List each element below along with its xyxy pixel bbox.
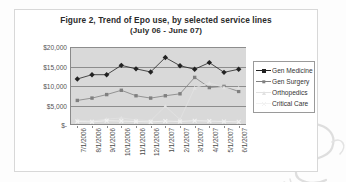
data-point-marker [133,66,138,71]
data-point-marker [177,63,182,68]
x-axis-tick-label: 8/1/2006 [95,128,102,153]
x-axis-tick-label: 3/1/2007 [197,128,204,153]
x-axis-tick-mark [92,126,93,128]
x-axis-tick-mark [209,126,210,128]
data-point-marker [207,60,212,65]
series-gen-surgery [76,76,241,102]
x-axis-tick-mark [136,126,137,128]
plot-series-layer [70,47,246,125]
data-point-marker [149,96,152,99]
legend-marker-square-icon [256,77,271,86]
y-axis-tick-label: $10,000 [43,83,67,90]
data-point-marker [207,81,211,85]
x-axis-tick-label: 9/1/2006 [109,128,116,153]
legend-item-gen-surgery[interactable]: Gen Surgery [256,76,312,87]
data-point-marker [119,63,124,68]
x-axis-tick-mark [180,126,181,128]
data-point-marker [75,76,80,81]
legend-marker-triangle-icon [256,88,271,97]
legend-marker-shape [262,102,266,106]
x-axis-tick-mark [121,126,122,128]
series-line [77,121,238,122]
chart-title-line1: Figure 2, Trend of Epo use, by selected … [15,15,317,26]
data-point-marker [90,96,93,99]
chart-title-line2: (July 06 - June 07) [15,26,317,37]
data-point-marker [89,72,94,77]
legend-item-label: Critical Care [271,100,308,107]
data-point-marker [104,72,109,77]
x-axis-tick-label: 1/1/2007 [168,128,175,153]
data-point-marker [163,104,167,108]
legend-marker-diamond-icon [256,66,271,75]
x-axis-tick-label: 5/1/2007 [227,128,234,153]
x-axis-tick-label: 4/1/2007 [212,128,219,153]
series-critical-care [75,119,240,124]
data-point-marker [193,76,196,79]
plot-wrapper [70,47,246,125]
data-point-marker [164,94,167,97]
data-point-marker [105,93,108,96]
data-point-marker [134,94,137,97]
legend-marker-shape [262,91,266,95]
legend-item-label: Gen Surgery [271,78,309,85]
y-axis-tick-label: $- [61,122,67,129]
data-point-marker [221,70,226,75]
y-axis-tick-label: $5,000 [47,102,67,109]
legend-item-orthopedics[interactable]: Orthopedics [256,87,312,98]
x-axis-tick-mark [224,126,225,128]
x-axis-tick-label: 6/1/2007 [241,128,248,153]
legend-item-critical-care[interactable]: Critical Care [256,98,312,109]
series-line [77,58,238,79]
legend-item-label: Gen Medicine [271,67,313,74]
data-point-marker [76,99,79,102]
x-axis-tick-label: 10/1/2006 [124,128,131,156]
x-axis-tick-mark [239,126,240,128]
x-axis-tick-mark [165,126,166,128]
x-axis: 7/1/20068/1/20069/1/200610/1/200611/1/20… [70,126,246,172]
x-axis-tick-mark [151,126,152,128]
x-axis-tick-label: 12/1/2006 [153,128,160,156]
data-point-marker [192,67,197,72]
legend-item-gen-medicine[interactable]: Gen Medicine [256,65,312,76]
series-line [77,77,238,100]
data-point-marker [208,86,211,89]
chart-title: Figure 2, Trend of Epo use, by selected … [15,15,317,36]
y-axis: $-$5,000$10,000$15,000$20,000 [15,47,67,125]
series-line [77,83,238,121]
x-axis-tick-mark [77,126,78,128]
data-point-marker [236,67,241,72]
chart-container: Figure 2, Trend of Epo use, by selected … [14,9,318,172]
scanned-page: Figure 2, Trend of Epo use, by selected … [0,0,346,182]
y-axis-tick-label: $15,000 [43,63,67,70]
chart-legend: Gen MedicineGen SurgeryOrthopedicsCritic… [253,61,315,113]
y-axis-tick-label: $20,000 [43,44,67,51]
legend-marker-shape [262,69,266,73]
legend-marker-x-icon [256,99,271,108]
x-axis-tick-label: 7/1/2006 [80,128,87,153]
x-axis-tick-mark [107,126,108,128]
data-point-marker [237,90,240,93]
x-axis-tick-label: 2/1/2007 [183,128,190,153]
legend-marker-shape [262,80,265,83]
legend-item-label: Orthopedics [271,89,308,96]
data-point-marker [178,92,181,95]
data-point-marker [120,89,123,92]
x-axis-tick-mark [195,126,196,128]
x-axis-tick-label: 11/1/2006 [139,128,146,156]
series-gen-medicine [75,55,242,82]
